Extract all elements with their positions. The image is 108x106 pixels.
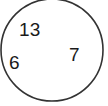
value-label-13: 13 [19, 20, 41, 39]
set-diagram: 13 6 7 [0, 0, 108, 106]
set-circle [1, 0, 103, 101]
value-label-7: 7 [69, 45, 80, 64]
value-label-6: 6 [9, 53, 20, 72]
